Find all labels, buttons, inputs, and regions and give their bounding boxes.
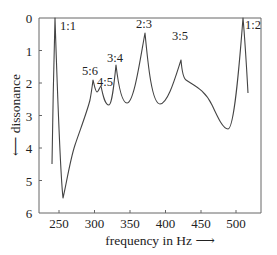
- x-axis: 250 300 350 400 450 500 frequency in Hz …: [49, 210, 246, 248]
- ratio-label-4-5: 4:5: [97, 75, 113, 89]
- y-tick-label: 6: [26, 206, 33, 221]
- y-tick-label: 2: [26, 76, 33, 91]
- x-tick-label: 350: [120, 216, 140, 231]
- ratio-label-3-5: 3:5: [172, 29, 188, 43]
- ratio-label-5-6: 5:6: [82, 64, 98, 78]
- ratio-label-2-3: 2:3: [136, 17, 152, 31]
- x-axis-label: frequency in Hz ⟶: [105, 233, 215, 248]
- y-tick-label: 4: [26, 141, 33, 156]
- y-tick-label: 3: [26, 109, 33, 124]
- dissonance-chart: 0 1 2 3 4 5 6 ⟵ dissonance 250 300 350 4…: [0, 0, 277, 255]
- x-tick-label: 250: [49, 216, 69, 231]
- y-tick-label: 0: [26, 11, 33, 26]
- x-tick-label: 450: [191, 216, 211, 231]
- plot-frame: [39, 18, 261, 213]
- x-tick-label: 300: [85, 216, 105, 231]
- dissonance-curve: [52, 18, 248, 198]
- y-axis-label: ⟵ dissonance: [8, 74, 23, 156]
- interval-annotations: 1:1 5:6 4:5 3:4 2:3 3:5 1:2: [60, 17, 261, 89]
- y-tick-label: 1: [26, 44, 33, 59]
- ratio-label-3-4: 3:4: [107, 51, 124, 65]
- x-tick-label: 500: [226, 216, 246, 231]
- y-axis: 0 1 2 3 4 5 6 ⟵ dissonance: [8, 11, 42, 221]
- x-tick-label: 400: [156, 216, 176, 231]
- ratio-label-1-1: 1:1: [60, 19, 76, 33]
- y-tick-label: 5: [26, 174, 33, 189]
- ratio-label-1-2: 1:2: [245, 18, 261, 32]
